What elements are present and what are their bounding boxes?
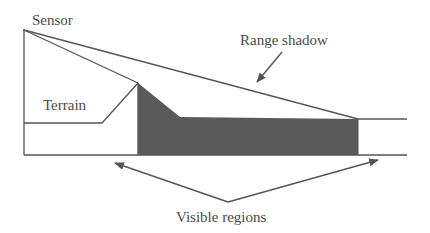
visible-regions-arrow-left: [115, 163, 228, 202]
terrain-label: Terrain: [43, 97, 87, 113]
sight-line-to-peak: [24, 30, 138, 83]
sensor-point: [23, 29, 25, 31]
visible-regions-arrow-right: [228, 160, 378, 202]
range-shadow-region: [138, 83, 358, 155]
sensor-label: Sensor: [32, 12, 73, 28]
range-shadow-diagram: Sensor Terrain Range shadow Visible regi…: [0, 0, 430, 233]
terrain-left: [24, 30, 138, 155]
range-shadow-label: Range shadow: [240, 32, 328, 48]
range-shadow-arrow: [257, 52, 282, 82]
visible-regions-label: Visible regions: [176, 209, 266, 225]
